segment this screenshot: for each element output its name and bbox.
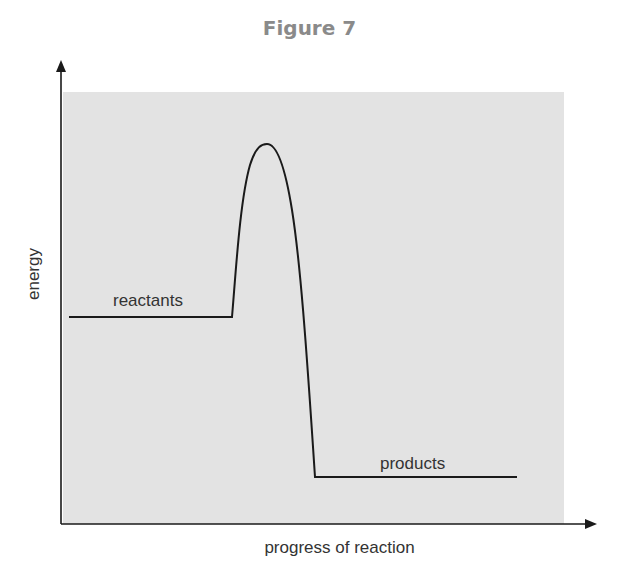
y-axis-label: energy — [24, 248, 44, 300]
energy-curve — [69, 144, 517, 477]
products-label: products — [380, 454, 445, 473]
y-axis-arrow-icon — [56, 60, 66, 72]
energy-profile-diagram: reactants products — [0, 0, 619, 566]
x-axis-arrow-icon — [585, 519, 597, 529]
x-axis-label: progress of reaction — [0, 538, 619, 558]
reactants-label: reactants — [113, 291, 183, 310]
